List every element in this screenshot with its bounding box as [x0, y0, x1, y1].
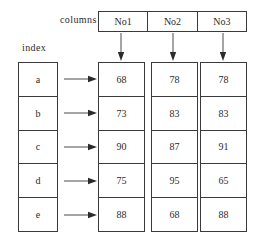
horizontal-arrow-c [64, 144, 97, 150]
horizontal-arrow-b [64, 110, 97, 116]
horizontal-arrow-d [64, 178, 97, 184]
vertical-arrow-no3 [220, 33, 226, 61]
vertical-arrow-no1 [118, 33, 124, 61]
arrow-connectors [0, 0, 257, 248]
dataframe-structure-diagram: columns index No1 No2 No3 a b c d e 68 7… [0, 0, 257, 248]
horizontal-arrow-a [64, 76, 97, 82]
horizontal-arrow-e [64, 212, 97, 218]
vertical-arrow-no2 [170, 33, 176, 61]
